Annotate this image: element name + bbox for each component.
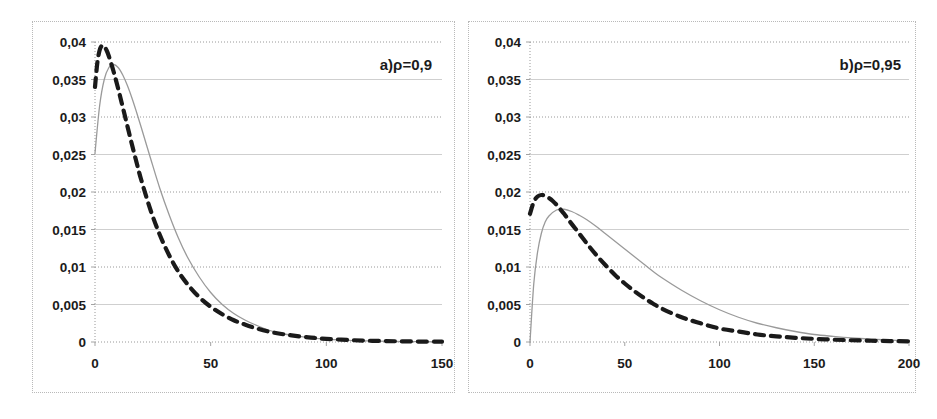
y-tick-label: 0,005 — [487, 298, 521, 313]
panel-annotation-label: b)ρ=0,95 — [840, 56, 901, 73]
y-tick-label: 0,005 — [52, 298, 86, 313]
x-tick-label: 200 — [898, 356, 921, 371]
gridlines — [530, 42, 909, 342]
y-tick-label: 0,03 — [60, 110, 87, 125]
x-tick-label: 150 — [431, 356, 454, 371]
y-tick-label: 0,025 — [487, 148, 521, 163]
x-tick-label: 50 — [617, 356, 632, 371]
chart-panel-b: 00,0050,010,0150,020,0250,030,0350,04050… — [467, 0, 937, 419]
x-tick-label: 100 — [708, 356, 731, 371]
y-tick-label: 0,04 — [60, 35, 87, 50]
y-tick-label: 0,03 — [495, 110, 522, 125]
series-solid-curve — [530, 209, 909, 342]
y-tick-label: 0,015 — [487, 223, 521, 238]
y-tick-label: 0,01 — [60, 260, 87, 275]
y-tick-label: 0,025 — [52, 148, 86, 163]
y-tick-label: 0,02 — [495, 185, 521, 200]
chart-panel-a: 00,0050,010,0150,020,0250,030,0350,04050… — [0, 0, 456, 419]
panel-annotation-label: a)ρ=0,9 — [380, 56, 432, 73]
y-tick-label: 0,015 — [52, 223, 86, 238]
y-tick-label: 0,035 — [52, 73, 86, 88]
y-tick-label: 0,04 — [495, 35, 522, 50]
series-dashed-curve — [95, 45, 442, 341]
x-tick-label: 0 — [526, 356, 534, 371]
x-tick-label: 50 — [203, 356, 218, 371]
y-tick-label: 0 — [513, 335, 521, 350]
y-tick-label: 0,02 — [60, 185, 86, 200]
x-tick-label: 150 — [803, 356, 826, 371]
panel-a-plot: 00,0050,010,0150,020,0250,030,0350,04050… — [0, 0, 456, 419]
y-tick-label: 0,01 — [495, 260, 522, 275]
x-tick-label: 100 — [315, 356, 338, 371]
y-tick-label: 0 — [78, 335, 86, 350]
panel-b-plot: 00,0050,010,0150,020,0250,030,0350,04050… — [467, 0, 937, 419]
x-tick-label: 0 — [91, 356, 99, 371]
y-tick-label: 0,035 — [487, 73, 521, 88]
gridlines — [95, 42, 442, 342]
series-dashed-curve — [530, 195, 909, 341]
figure-container: 00,0050,010,0150,020,0250,030,0350,04050… — [0, 0, 937, 419]
